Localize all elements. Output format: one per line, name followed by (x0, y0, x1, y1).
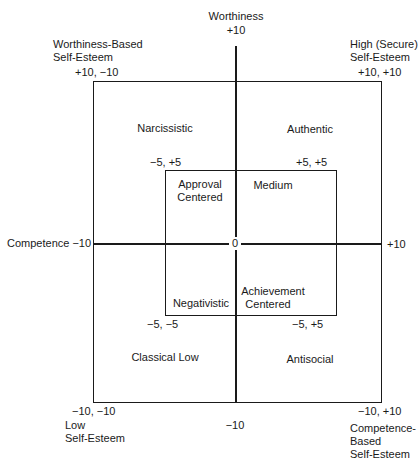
corner-bottom-right-title-3: Self-Esteem (350, 448, 410, 461)
axis-left-label: Competence −10 (7, 237, 91, 250)
inner-negativistic: Negativistic (168, 297, 234, 310)
inner-achievement-centered-1: Achievement (238, 285, 308, 298)
quadrant-antisocial: Antisocial (255, 353, 365, 366)
corner-top-right-title-2: Self-Esteem (350, 51, 410, 64)
corner-bottom-right-title-1: Competence- (350, 422, 416, 435)
corner-top-left-title-2: Self-Esteem (53, 51, 113, 64)
corner-bottom-left-title-1: Low (65, 419, 85, 432)
inner-coord-bottom-right: −5, +5 (292, 318, 323, 331)
corner-bottom-left-coord: −10, −10 (72, 405, 115, 418)
corner-top-left-coord: +10, −10 (75, 66, 118, 79)
corner-bottom-left-title-2: Self-Esteem (65, 432, 125, 445)
corner-top-left-title-1: Worthiness-Based (53, 38, 143, 51)
inner-achievement-centered-2: Centered (238, 298, 298, 311)
inner-approval-centered-2: Centered (170, 191, 230, 204)
axis-bottom-value: −10 (210, 419, 260, 432)
inner-coord-bottom-left: −5, −5 (147, 318, 178, 331)
vertical-axis (235, 46, 237, 403)
inner-medium: Medium (243, 179, 303, 192)
corner-top-right-title-1: High (Secure) (350, 38, 418, 51)
corner-bottom-right-title-2: Based (350, 435, 381, 448)
inner-coord-top-right: +5, +5 (296, 156, 327, 169)
inner-approval-centered-1: Approval (170, 178, 230, 191)
quadrant-narcissistic: Narcissistic (110, 122, 220, 135)
origin-label: 0 (229, 237, 241, 250)
inner-coord-top-left: −5, +5 (150, 156, 181, 169)
axis-right-value: +10 (387, 238, 406, 251)
corner-top-right-coord: +10, +10 (358, 66, 401, 79)
corner-bottom-right-coord: −10, +10 (358, 405, 401, 418)
quadrant-classical-low: Classical Low (110, 351, 220, 364)
axis-top-label: Worthiness (196, 10, 276, 23)
axis-top-value: +10 (196, 24, 276, 37)
quadrant-authentic: Authentic (255, 123, 365, 136)
